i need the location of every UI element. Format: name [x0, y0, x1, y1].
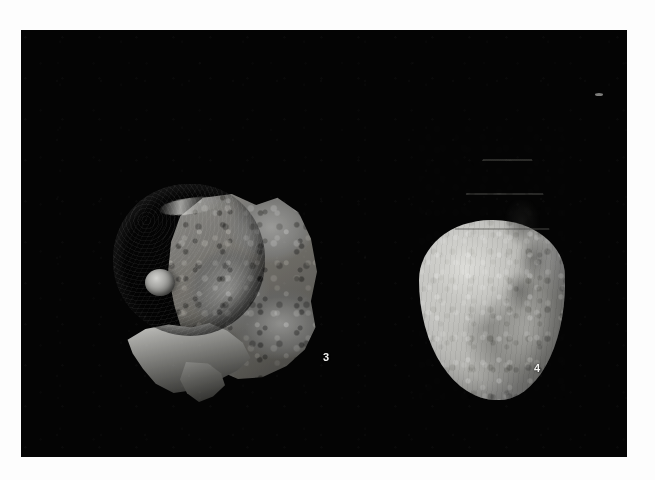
specimen-plate: 3 4 [0, 0, 655, 480]
specimen-4-suture-lines [447, 122, 551, 258]
specimen-4-spire [447, 122, 551, 258]
specimen-3-protoconch-apex [145, 269, 175, 296]
photograph-field: 3 4 [21, 30, 627, 457]
specimen-3-shell-body [113, 184, 265, 336]
figure-label-3: 3 [323, 352, 329, 363]
dust-speck-artifact [595, 93, 603, 96]
figure-label-4: 4 [534, 363, 540, 374]
specimen-3 [107, 170, 337, 405]
specimen-4 [419, 122, 565, 400]
